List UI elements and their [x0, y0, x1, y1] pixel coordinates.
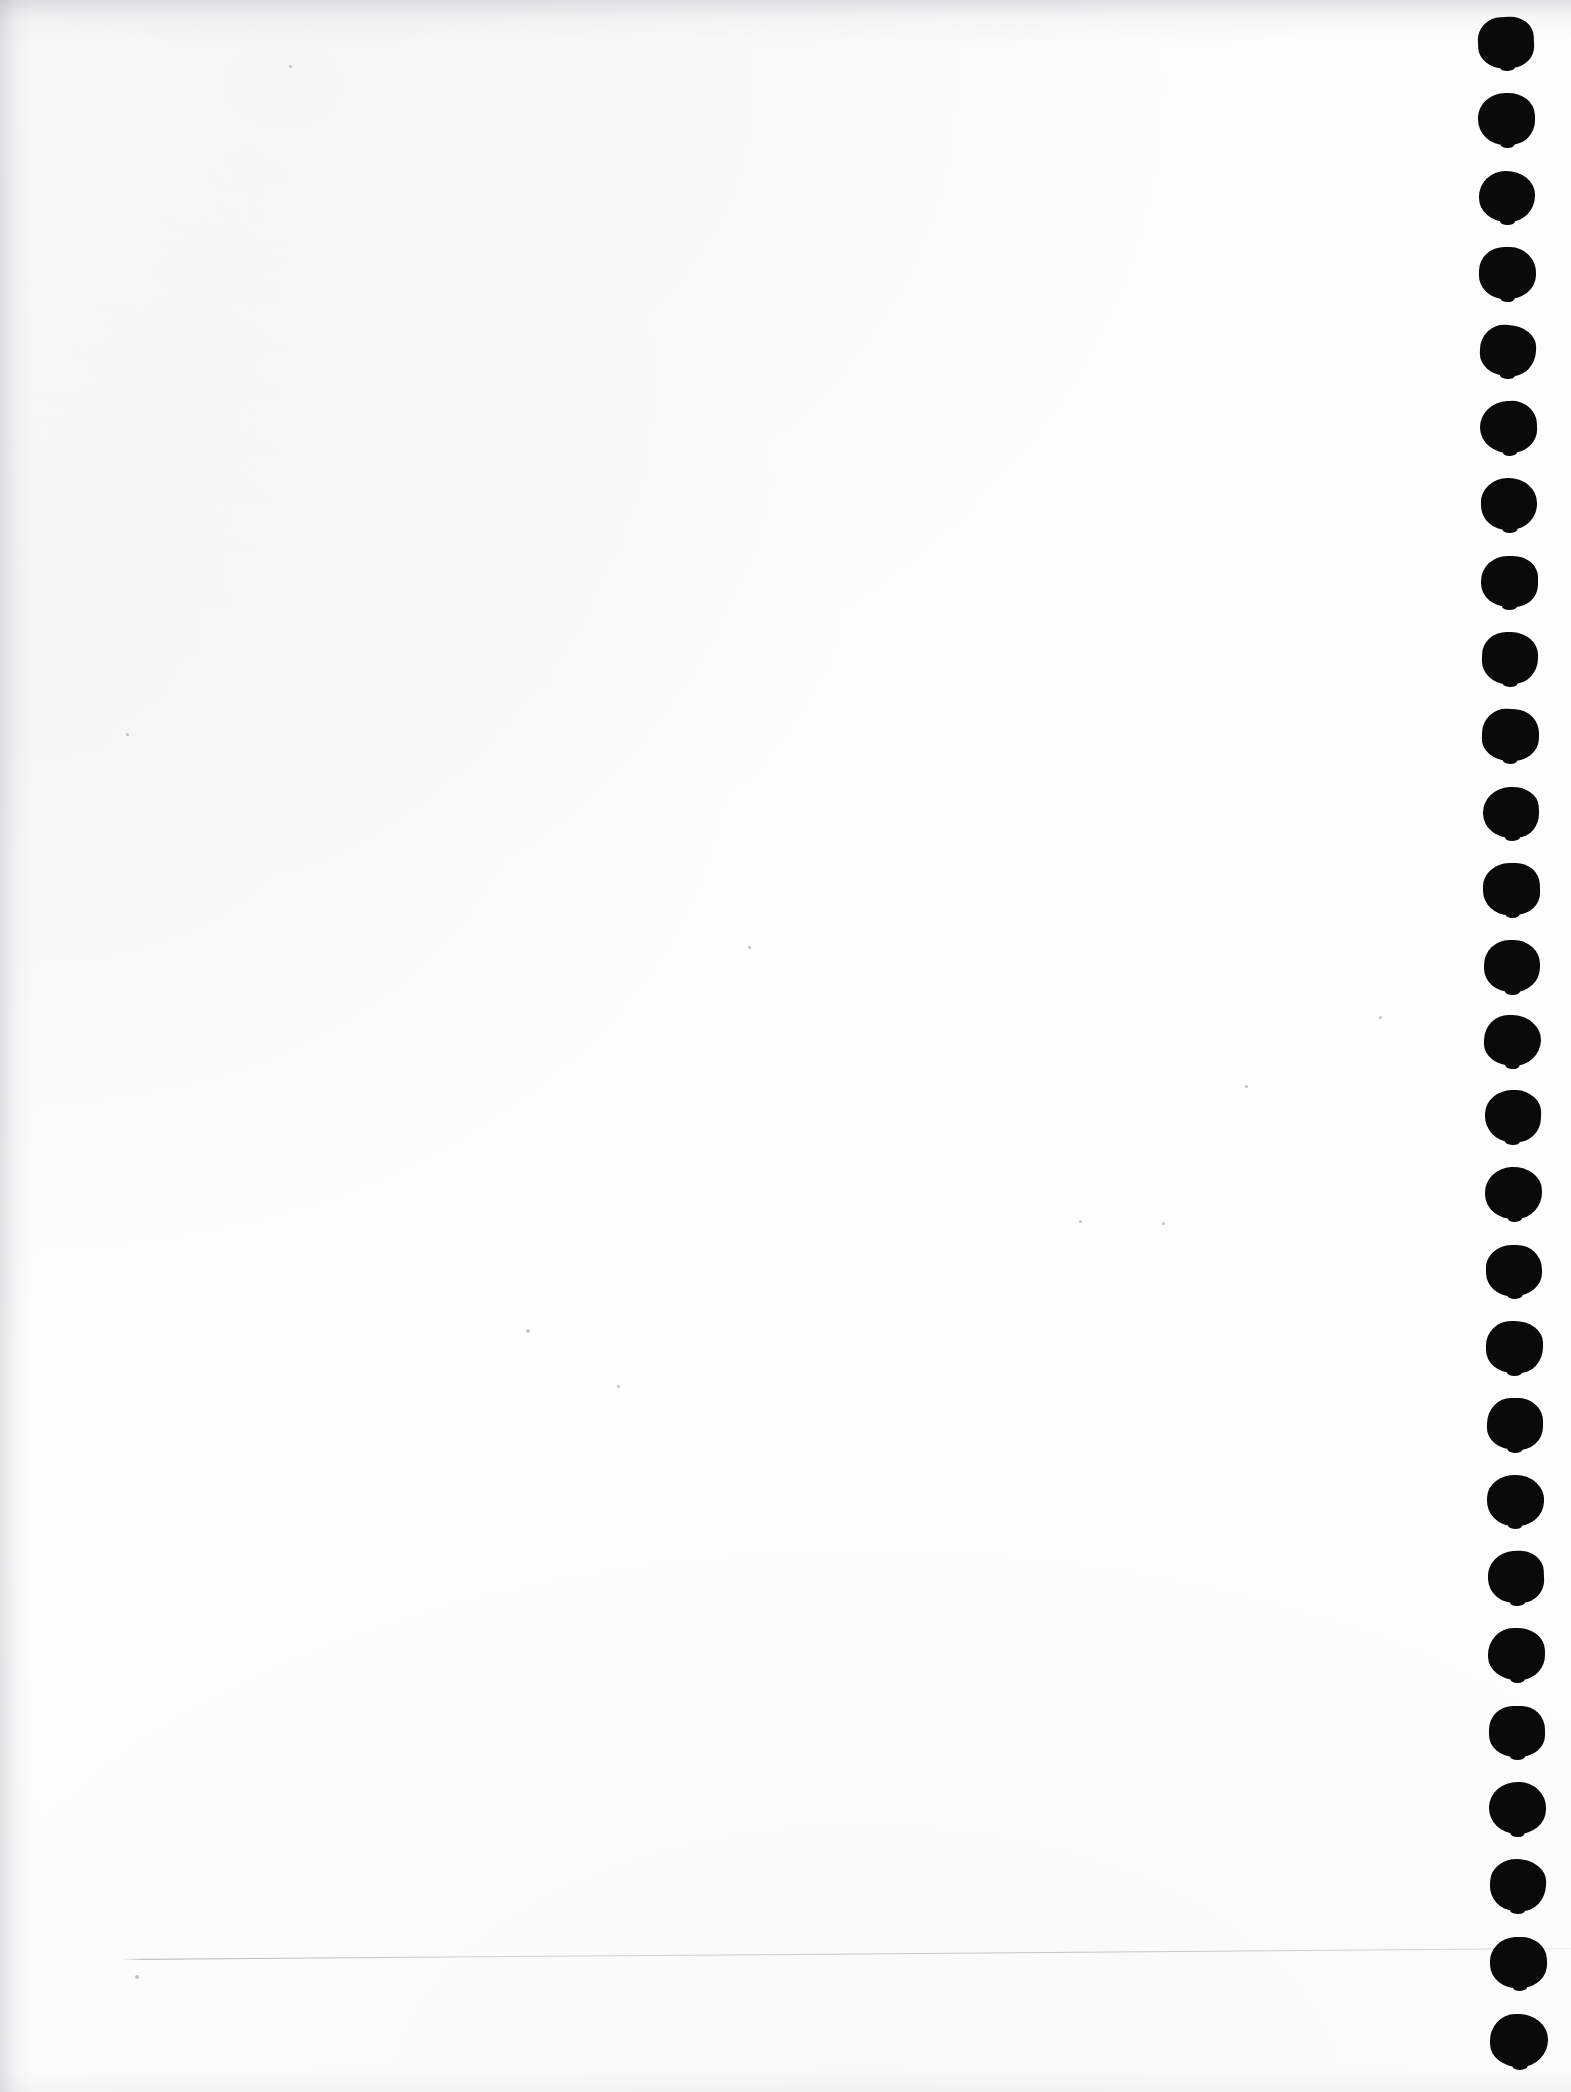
punch-hole — [1487, 1550, 1545, 1604]
punch-hole — [1488, 1781, 1546, 1834]
punch-hole — [1479, 323, 1537, 376]
punch-hole — [1484, 940, 1540, 992]
punch-hole — [1486, 1397, 1543, 1450]
punch-hole — [1489, 1706, 1545, 1757]
punch-hole — [1479, 171, 1535, 222]
punch-hole — [1481, 556, 1538, 607]
punch-hole — [1489, 2013, 1548, 2067]
punch-hole-strip — [1451, 0, 1571, 2092]
punch-hole — [1478, 246, 1536, 299]
punch-hole — [1477, 92, 1535, 145]
punch-hole — [1482, 785, 1540, 838]
punch-hole — [1488, 1935, 1547, 1988]
punch-hole — [1480, 708, 1539, 762]
scanned-page — [0, 0, 1571, 2092]
punch-hole — [1480, 477, 1537, 530]
punch-hole — [1478, 400, 1537, 454]
punch-hole — [1486, 1321, 1543, 1373]
punch-hole — [1489, 1858, 1547, 1912]
punch-hole — [1483, 1166, 1542, 1220]
page-body-text — [0, 0, 1440, 2092]
punch-hole — [1482, 862, 1540, 915]
punch-hole — [1484, 1089, 1542, 1143]
punch-hole — [1487, 1627, 1545, 1680]
punch-hole — [1483, 1014, 1541, 1066]
punch-hole — [1485, 1244, 1542, 1296]
punch-hole — [1485, 1473, 1544, 1526]
punch-hole — [1481, 631, 1538, 684]
punch-hole — [1477, 15, 1535, 68]
